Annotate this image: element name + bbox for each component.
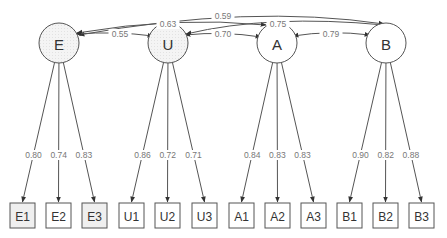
loading-label-a1: 0.84 [244, 150, 261, 160]
loading-u3 [172, 62, 204, 202]
loading-label-e1: 0.80 [25, 150, 42, 160]
indicator-u3[interactable]: U3 [192, 203, 217, 228]
loading-u1 [132, 62, 164, 202]
indicator-b3[interactable]: B3 [409, 203, 434, 228]
indicator-label: U3 [197, 210, 213, 224]
indicator-label: U2 [160, 210, 176, 224]
indicator-e3[interactable]: E3 [82, 203, 107, 228]
indicator-label: E1 [15, 210, 30, 224]
loading-label-b2: 0.82 [377, 150, 394, 160]
indicator-a3[interactable]: A3 [301, 203, 326, 228]
indicator-u1[interactable]: U1 [119, 203, 144, 228]
indicator-b1[interactable]: B1 [337, 203, 362, 228]
indicator-label: E2 [51, 210, 66, 224]
latent-factor-e[interactable]: E [39, 23, 79, 63]
indicator-u2[interactable]: U2 [155, 203, 180, 228]
loading-label-b3: 0.88 [403, 150, 420, 160]
loading-a1 [242, 63, 273, 202]
latent-label: A [272, 36, 282, 53]
covariance-label-e-a: 0.63 [160, 19, 177, 29]
loading-e1 [23, 62, 55, 202]
loading-edges [23, 62, 422, 202]
indicator-label: B2 [378, 210, 393, 224]
covariance-label-e-b: 0.59 [215, 11, 232, 21]
indicator-label: E3 [87, 210, 102, 224]
loading-e3 [63, 63, 94, 202]
loading-label-e3: 0.83 [76, 150, 93, 160]
loading-label-b1: 0.90 [352, 150, 369, 160]
indicator-label: B3 [414, 210, 429, 224]
indicator-label: A3 [306, 210, 321, 224]
loading-label-u1: 0.86 [134, 150, 151, 160]
latent-factor-b[interactable]: B [366, 23, 406, 63]
latent-label: E [54, 36, 64, 53]
indicator-a2[interactable]: A2 [265, 203, 290, 228]
indicator-e2[interactable]: E2 [46, 203, 71, 228]
loading-b1 [350, 62, 382, 202]
latent-label: B [381, 36, 391, 53]
indicator-a1[interactable]: A1 [229, 203, 254, 228]
sem-diagram: EUAB E1E2E3U1U2U3A1A2A3B1B2B3 0.590.630.… [0, 0, 447, 238]
loading-label-a3: 0.83 [294, 150, 311, 160]
indicator-e1[interactable]: E1 [10, 203, 35, 228]
indicator-b2[interactable]: B2 [373, 203, 398, 228]
covariance-label-u-a: 0.70 [215, 29, 232, 39]
indicators: E1E2E3U1U2U3A1A2A3B1B2B3 [10, 203, 434, 228]
latent-label: U [163, 36, 174, 53]
indicator-label: B1 [342, 210, 357, 224]
indicator-label: A2 [270, 210, 285, 224]
loading-label-u2: 0.72 [159, 150, 176, 160]
indicator-label: A1 [234, 210, 249, 224]
covariance-label-a-b: 0.79 [323, 29, 340, 39]
covariance-label-e-u: 0.55 [112, 29, 129, 39]
loading-label-e2: 0.74 [50, 150, 67, 160]
indicator-label: U1 [124, 210, 140, 224]
loading-a3 [281, 62, 313, 202]
loading-label-a2: 0.83 [269, 150, 286, 160]
loading-b3 [390, 63, 421, 202]
covariance-label-u-b: 0.75 [270, 19, 287, 29]
loading-label-u3: 0.71 [185, 150, 202, 160]
